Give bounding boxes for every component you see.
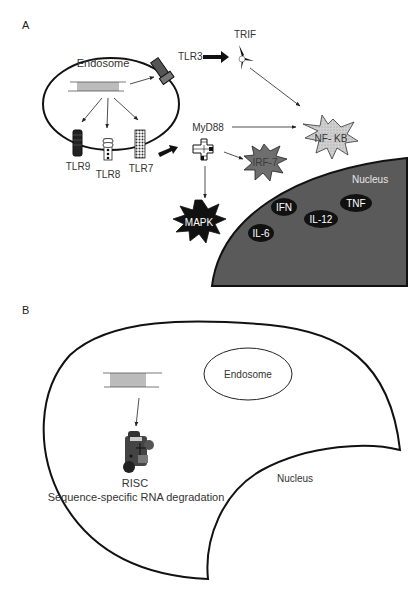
svg-text:IL-6: IL-6 — [252, 228, 270, 239]
panel-a-label: A — [22, 19, 30, 31]
trif-adaptor-icon — [232, 45, 254, 70]
tlr7-label: TLR7 — [129, 163, 154, 174]
myd88-to-irf7-arrow — [224, 152, 243, 159]
mapk-effector: MAPK — [173, 200, 226, 243]
tlr8-receptor-icon — [103, 139, 113, 161]
svg-text:IL-12: IL-12 — [310, 214, 333, 225]
tlr7-receptor-icon — [135, 130, 145, 158]
endosome-label: Endosome — [77, 57, 130, 69]
dsrna-icon — [68, 82, 126, 91]
diagram-canvas: A Nucleus IFN TNF IL-12 IL-6 Endosome — [0, 0, 417, 599]
nucleus-b-label: Nucleus — [277, 473, 313, 484]
tlr3-label: TLR3 — [178, 51, 203, 62]
tlr9-label: TLR9 — [66, 161, 91, 172]
svg-text:IFN: IFN — [276, 202, 292, 213]
panel-b-label: B — [22, 304, 29, 316]
svg-text:NF- KB: NF- KB — [315, 133, 348, 144]
trif-label: TRIF — [234, 29, 256, 40]
svg-text:TNF: TNF — [346, 198, 365, 209]
tlr3-to-trif-arrow — [203, 51, 229, 63]
risc-caption: Sequence-specific RNA degradation — [48, 491, 225, 503]
svg-text:MAPK: MAPK — [185, 217, 214, 228]
cytokine-il6: IL-6 — [248, 224, 274, 242]
risc-label: RISC — [122, 477, 148, 489]
panel-a: A Nucleus IFN TNF IL-12 IL-6 Endosome — [22, 19, 407, 286]
cytokine-il12: IL-12 — [304, 210, 338, 228]
cytokine-ifn: IFN — [271, 198, 297, 216]
myd88-adaptor-icon — [193, 139, 213, 160]
irf7-effector: IRF-7 — [244, 144, 287, 181]
panel-b: B Endosome Nucleus — [22, 304, 400, 579]
svg-text:IRF-7: IRF-7 — [253, 157, 278, 168]
tlr7-to-myd88-arrow — [158, 145, 178, 157]
trif-to-nfkb-arrow — [250, 68, 300, 106]
tlr9-receptor-icon — [73, 130, 82, 156]
nfkb-effector: NF- KB — [303, 115, 358, 159]
cytokine-tnf: TNF — [340, 194, 372, 212]
tlr8-label: TLR8 — [96, 169, 121, 180]
myd88-label: MyD88 — [192, 122, 224, 133]
endosome-b-label: Endosome — [224, 369, 272, 380]
nucleus-label: Nucleus — [352, 174, 388, 185]
